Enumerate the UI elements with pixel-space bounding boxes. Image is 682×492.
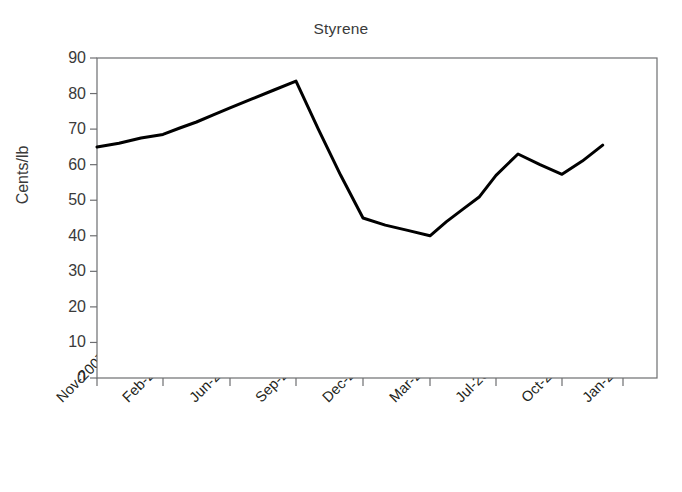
x-axis-ticks xyxy=(97,378,623,386)
chart-container: Styrene Cents/lb 9080706050403020100 Nov… xyxy=(0,0,682,492)
plot-area xyxy=(0,0,682,492)
y-axis-ticks xyxy=(90,58,97,378)
plot-frame xyxy=(97,58,657,378)
